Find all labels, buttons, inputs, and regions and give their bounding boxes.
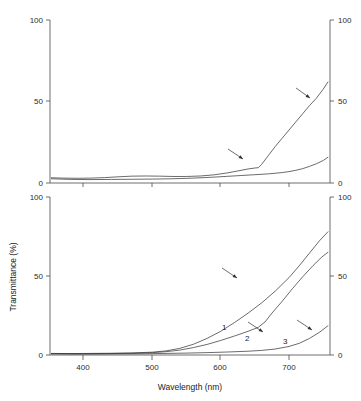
y-axis-title: Transmittance (%) <box>8 242 18 311</box>
bottom-panel-left-label-100: 100 <box>30 193 44 202</box>
bottom-panel-left-label-0: 0 <box>39 351 44 360</box>
transmittance-figure: Transmittance (%) 100 5 <box>0 0 361 401</box>
top-panel-left-label-0: 0 <box>39 179 44 188</box>
bottom-panel-right-label-100: 100 <box>338 193 352 202</box>
figure-background <box>0 0 361 401</box>
bottom-panel-right-label-0: 0 <box>338 351 343 360</box>
top-panel-right-label-50: 50 <box>338 97 347 106</box>
top-panel-right-label-0: 0 <box>338 179 343 188</box>
curve-1-label: 1 <box>222 323 227 332</box>
y-axis-title-group: Transmittance (%) <box>8 242 18 311</box>
curve-3-label: 3 <box>283 337 288 346</box>
x-tick-label-600: 600 <box>213 363 227 372</box>
top-panel-right-label-100: 100 <box>338 16 352 25</box>
x-axis-title: Wavelength (nm) <box>158 382 223 392</box>
curve-2-label: 2 <box>245 334 250 343</box>
x-tick-label-400: 400 <box>76 363 90 372</box>
figure-canvas: Transmittance (%) 100 5 <box>0 0 361 401</box>
bottom-panel-left-label-50: 50 <box>34 272 43 281</box>
bottom-panel-right-label-50: 50 <box>338 272 347 281</box>
x-tick-label-700: 700 <box>282 363 296 372</box>
x-tick-label-500: 500 <box>145 363 159 372</box>
top-panel-left-label-50: 50 <box>34 97 43 106</box>
top-panel-left-label-100: 100 <box>30 16 44 25</box>
